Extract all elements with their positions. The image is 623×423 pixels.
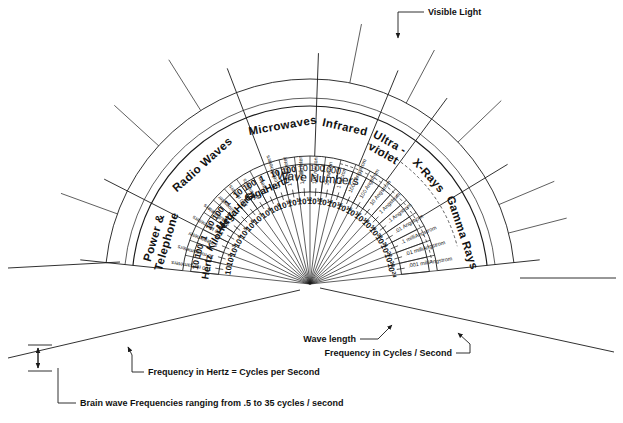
band-divider-2 [227,68,264,164]
outer-ray-4 [406,50,434,103]
frequency-tick-17 [365,209,370,215]
frequency-tick-7 [260,202,264,209]
frequency-tick-20 [386,235,393,239]
annotation-wave-length: Wave length [303,334,356,344]
wavelength-label-22: .01 milliAngstrom [404,239,446,257]
outer-ray-0 [61,193,117,214]
band-divider-7 [437,260,539,271]
unit-cell-divider-24 [402,271,430,274]
frequency-tick-3 [227,235,234,239]
band-divider-0 [80,260,182,271]
band-infrared: Infrared [321,116,369,138]
baseline-left [8,290,300,358]
spectrum-svg: 100 megameters10 megameters1 megameter10… [0,0,623,423]
leader-wave-length [360,325,392,339]
baseline-right [320,288,614,352]
leader-visible-light [398,12,424,38]
leader-frequency-hertz [128,347,144,372]
outer-ray-3 [350,24,362,83]
wave-numbers-value-0: 10 [298,163,309,174]
band-microwaves: Microwaves [247,114,317,138]
annotation-layer: Visible LightWave lengthFrequency in Cyc… [28,7,481,408]
leader-frequency-cycles [456,333,470,353]
horizon-left [8,262,120,268]
spectrum-chart: 100 megameters10 megameters1 megameter10… [0,0,623,423]
outer-ray-1 [114,105,158,145]
band-divider-3 [315,53,319,156]
annotation-brain-wave: Brain wave Frequencies ranging from .5 t… [80,398,344,408]
outer-ray-7 [509,218,567,233]
frequency-unit-value-0-0: 10 [190,259,201,270]
annotation-frequency-cycles: Frequency in Cycles / Second [324,348,452,358]
wavelength-label-23: .001 milliAngstrom [408,255,453,268]
outer-ray-6 [499,181,554,204]
annotation-visible-light: Visible Light [428,7,481,17]
frequency-tick-19 [380,226,386,231]
frequency-tick-4 [234,226,240,231]
exponent-label-layer: 1010210310410510610710810910101011101210… [223,196,398,279]
frequency-tick-6 [250,209,255,215]
outer-ray-2 [169,60,201,111]
annotation-frequency-hertz: Frequency in Hertz = Cycles per Second [148,367,320,377]
frequency-tick-16 [356,202,360,209]
band-radio-waves: Radio Waves [170,135,234,194]
outer-ray-5 [458,101,501,143]
leader-brain-wave [58,368,76,403]
